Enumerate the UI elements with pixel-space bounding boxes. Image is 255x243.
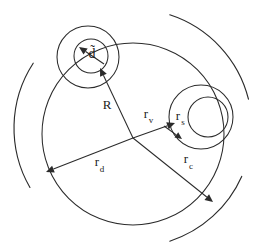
label-r-s: r s <box>176 108 185 127</box>
label-r-d: r d <box>95 154 105 174</box>
arrow-rs <box>164 126 182 139</box>
label-R: R <box>103 97 112 112</box>
arrow-rc-shaft <box>133 138 207 197</box>
label-r-v-subscript: v <box>149 115 154 125</box>
arrow-rv <box>133 122 175 138</box>
arrow-rc <box>133 138 213 202</box>
arrow-d-tilde-head <box>79 47 88 55</box>
label-r-c-subscript: c <box>189 161 193 171</box>
radii-schematic-figure: d̃ R r v r s r d r c <box>0 0 255 243</box>
label-d-tilde: d̃ <box>89 45 96 61</box>
diagram-canvas: d̃ R r v r s r d r c <box>0 0 255 243</box>
arrow-rv-shaft <box>133 126 167 138</box>
left-outer-arc <box>14 63 33 187</box>
arrow-rd <box>46 138 133 173</box>
label-r-v: r v <box>144 106 154 125</box>
label-group: d̃ R r v r s r d r c <box>89 45 194 174</box>
arrow-group <box>46 47 213 202</box>
arrow-rd-shaft <box>53 138 133 169</box>
bottomright-outer-arc <box>170 176 242 241</box>
label-r-c: r c <box>184 151 193 171</box>
label-r-s-base: r <box>176 108 181 123</box>
outer-arc-group <box>14 15 248 241</box>
label-r-d-subscript: d <box>100 164 105 174</box>
arrow-rc-head <box>204 194 213 202</box>
label-r-s-subscript: s <box>181 117 185 127</box>
